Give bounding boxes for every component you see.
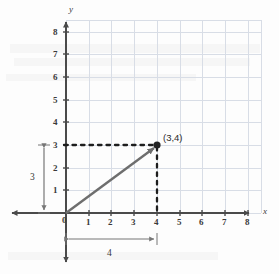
x-tick-label-6: 6 — [199, 217, 204, 227]
dimension-horizontal — [66, 233, 157, 245]
y-tick-label-8: 8 — [53, 27, 58, 37]
y-tick-label-3: 3 — [53, 140, 58, 150]
y-tick-label-5: 5 — [53, 95, 58, 105]
data-point — [153, 141, 160, 148]
vector-plot-figure: 0 1 2 3 4 5 6 7 8 1 2 3 4 5 6 7 8 y x (3… — [0, 0, 279, 274]
dimension-label-vertical: 3 — [30, 172, 35, 182]
y-tick-label-6: 6 — [53, 72, 58, 82]
point-coordinate-label: (3,4) — [163, 132, 183, 143]
x-tick-label-0: 0 — [62, 215, 67, 225]
vector-arrow — [66, 148, 154, 213]
y-tick-label-7: 7 — [53, 49, 58, 59]
y-tick-label-2: 2 — [53, 163, 58, 173]
x-tick-label-4: 4 — [154, 217, 159, 227]
x-tick-label-1: 1 — [86, 217, 91, 227]
tick-marks — [63, 32, 248, 216]
dimension-vertical — [38, 145, 50, 213]
x-axis-label: x — [263, 206, 267, 216]
y-tick-label-1: 1 — [53, 185, 58, 195]
dimension-label-horizontal: 4 — [107, 248, 112, 258]
x-tick-label-5: 5 — [177, 217, 182, 227]
x-tick-label-2: 2 — [108, 217, 113, 227]
x-tick-label-8: 8 — [245, 217, 250, 227]
y-axis-label: y — [69, 4, 73, 14]
grid-lines — [66, 20, 261, 213]
x-tick-label-7: 7 — [222, 217, 227, 227]
coordinate-plane-svg — [0, 0, 279, 274]
y-tick-label-4: 4 — [53, 117, 58, 127]
x-tick-label-3: 3 — [131, 217, 136, 227]
